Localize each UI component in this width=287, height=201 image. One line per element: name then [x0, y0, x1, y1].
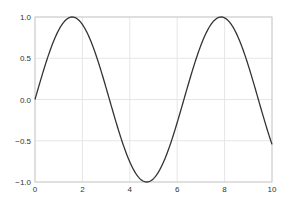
- x-tick-label: 0: [33, 185, 38, 194]
- x-tick-label: 2: [80, 185, 85, 194]
- x-tick-label: 8: [222, 185, 227, 194]
- y-tick-label: 0.5: [20, 54, 32, 63]
- x-axis-tick-labels: 0246810: [33, 185, 277, 194]
- y-tick-label: 1.0: [20, 13, 32, 22]
- y-tick-label: 0.0: [20, 96, 32, 105]
- sine-line-chart: 0246810 −1.0−0.50.00.51.0: [0, 0, 287, 201]
- x-tick-label: 6: [175, 185, 180, 194]
- x-tick-label: 4: [128, 185, 133, 194]
- y-tick-label: −1.0: [15, 178, 31, 187]
- y-axis-tick-labels: −1.0−0.50.00.51.0: [15, 13, 31, 187]
- x-tick-label: 10: [268, 185, 277, 194]
- y-tick-label: −0.5: [15, 137, 31, 146]
